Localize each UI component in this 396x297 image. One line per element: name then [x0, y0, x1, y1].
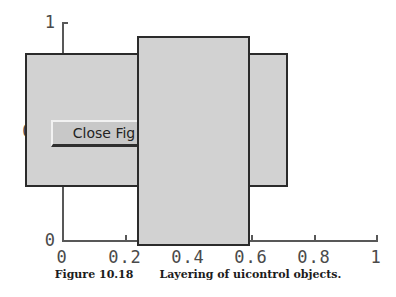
figure-caption-text: Layering of uicontrol objects.	[159, 268, 341, 281]
x-tick-label-0: 0	[56, 247, 67, 267]
figure-caption: Figure 10.18Layering of uicontrol object…	[0, 268, 396, 281]
figure-caption-number: Figure 10.18	[55, 268, 134, 281]
x-axis-tick	[314, 235, 316, 240]
x-tick-label-3: 0.6	[234, 247, 268, 267]
matlab-figure-window: 0 0.2 0.4 0.6 0.8 1 0 0.5 1 Close Fig Fi…	[0, 0, 396, 297]
x-axis-tick	[125, 235, 127, 240]
y-axis-tick	[62, 240, 68, 242]
x-tick-label-1: 0.2	[108, 247, 142, 267]
x-axis-tick	[376, 235, 378, 240]
x-axis-tick	[251, 235, 253, 240]
y-tick-label-0: 0	[45, 230, 56, 250]
uicontrol-frame-front-middle[interactable]	[137, 36, 250, 246]
x-tick-label-2: 0.4	[171, 247, 205, 267]
x-tick-label-4: 0.8	[297, 247, 331, 267]
y-axis-tick	[62, 22, 68, 24]
y-tick-label-1: 1	[45, 12, 56, 32]
x-tick-label-5: 1	[370, 247, 381, 267]
